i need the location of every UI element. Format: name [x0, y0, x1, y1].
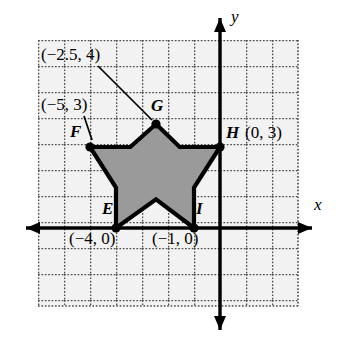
vertex-dot-f: [85, 142, 94, 151]
coordinate-label-g: (−2.5, 4): [41, 46, 100, 63]
coordinate-plane-figure: (−2.5, 4) (−5, 3) F G H (0, 3) E I (−4, …: [0, 0, 341, 344]
point-label-g: G: [151, 97, 163, 114]
coordinate-label-h: (0, 3): [245, 124, 282, 141]
coordinate-label-f: (−5, 3): [41, 96, 87, 113]
point-label-f: F: [70, 123, 81, 140]
coordinate-label-e: (−4, 0): [69, 230, 115, 247]
axis-label-x: x: [314, 196, 322, 213]
coordinate-label-i: (−1, 0): [152, 230, 198, 247]
vertex-dot-g: [151, 119, 160, 128]
point-label-h: H: [226, 124, 239, 141]
point-label-e: E: [102, 200, 113, 217]
axis-label-y: y: [231, 8, 239, 25]
point-label-i: I: [196, 200, 203, 217]
vertex-dot-h: [215, 142, 224, 151]
